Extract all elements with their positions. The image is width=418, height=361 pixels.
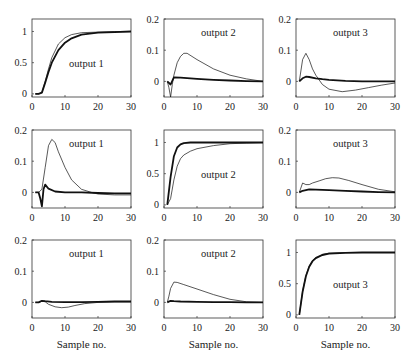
line-thin — [299, 53, 395, 91]
panel-label: output 2 — [201, 248, 236, 259]
x-tick-label: 20 — [225, 322, 235, 333]
y-tick-label: 0.2 — [147, 14, 160, 25]
subplot-r3-c1: 010203000.10.2output 1Sample no. — [15, 235, 137, 351]
y-tick-label: 0.5 — [279, 278, 292, 289]
y-tick-label: 0.5 — [15, 57, 28, 68]
x-tick-label: 30 — [390, 322, 400, 333]
panel-label: output 1 — [69, 138, 104, 149]
x-tick-label: 30 — [258, 322, 268, 333]
panel-label: output 3 — [333, 138, 368, 149]
x-axis-label: Sample no. — [321, 338, 371, 350]
x-tick-label: 0 — [162, 212, 167, 223]
line-thick — [167, 301, 263, 303]
panel-label: output 1 — [69, 248, 104, 259]
y-tick-label: 1 — [286, 247, 291, 258]
y-tick-label: 0.1 — [279, 156, 292, 167]
x-tick-label: 30 — [390, 101, 400, 112]
subplot-r2-c3: 010203000.10.2output 3 — [279, 125, 401, 224]
x-tick-label: 10 — [324, 101, 334, 112]
x-tick-label: 10 — [192, 212, 202, 223]
x-tick-label: 10 — [324, 322, 334, 333]
y-tick-label: 0.2 — [279, 14, 292, 25]
figure-3x3-step-responses: 010203000.51output 1010203000.10.2output… — [0, 0, 418, 361]
x-tick-label: 0 — [294, 212, 299, 223]
x-tick-label: 30 — [126, 101, 136, 112]
y-tick-label: 1 — [154, 137, 159, 148]
x-tick-label: 0 — [294, 322, 299, 333]
x-tick-label: 0 — [30, 212, 35, 223]
y-tick-label: 1 — [22, 26, 27, 37]
subplot-r1-c3: 010203000.10.2output 3 — [279, 14, 401, 113]
x-tick-label: 0 — [294, 101, 299, 112]
x-tick-label: 20 — [357, 101, 367, 112]
x-tick-label: 10 — [60, 212, 70, 223]
panel-label: output 2 — [201, 27, 236, 38]
y-tick-label: 0 — [154, 76, 159, 87]
panel-label: output 3 — [333, 279, 368, 290]
x-tick-label: 10 — [192, 101, 202, 112]
y-tick-label: 0 — [22, 187, 27, 198]
x-tick-label: 30 — [126, 322, 136, 333]
x-axis-label: Sample no. — [189, 338, 239, 350]
x-tick-label: 30 — [258, 101, 268, 112]
y-tick-label: 0.1 — [15, 266, 28, 277]
subplot-r2-c2: 010203000.51output 2 — [147, 130, 269, 223]
y-tick-label: 0.1 — [15, 156, 28, 167]
line-thick — [299, 77, 395, 82]
subplot-r3-c2: 010203000.10.2output 2Sample no. — [147, 235, 269, 351]
y-tick-label: 0.2 — [147, 235, 160, 246]
y-tick-label: 0 — [154, 199, 159, 210]
x-tick-label: 0 — [30, 101, 35, 112]
y-tick-label: 0.2 — [15, 125, 28, 136]
x-tick-label: 10 — [192, 322, 202, 333]
y-tick-label: 0.2 — [279, 125, 292, 136]
x-tick-label: 10 — [60, 101, 70, 112]
y-tick-label: 0 — [286, 187, 291, 198]
y-tick-label: 0.1 — [147, 45, 160, 56]
x-axis-label: Sample no. — [57, 338, 107, 350]
y-tick-label: 0.1 — [279, 45, 292, 56]
subplot-r2-c1: 010203000.10.2output 1 — [15, 125, 137, 224]
panel-label: output 1 — [69, 58, 104, 69]
x-tick-label: 20 — [93, 212, 103, 223]
x-tick-label: 20 — [93, 101, 103, 112]
line-thick — [167, 77, 263, 84]
y-tick-label: 0.1 — [147, 266, 160, 277]
x-tick-label: 20 — [225, 101, 235, 112]
subplot-r1-c2: 010203000.10.2output 2 — [147, 14, 269, 113]
x-tick-label: 10 — [324, 212, 334, 223]
x-tick-label: 0 — [162, 322, 167, 333]
panel-label: output 2 — [201, 169, 236, 180]
y-tick-label: 0.5 — [147, 168, 160, 179]
y-tick-label: 0 — [286, 76, 291, 87]
x-tick-label: 30 — [258, 212, 268, 223]
y-tick-label: 0.2 — [15, 235, 28, 246]
line-thin — [167, 53, 263, 97]
panel-label: output 3 — [333, 27, 368, 38]
x-tick-label: 20 — [225, 212, 235, 223]
x-tick-label: 0 — [162, 101, 167, 112]
x-tick-label: 10 — [60, 322, 70, 333]
x-tick-label: 30 — [126, 212, 136, 223]
x-tick-label: 20 — [93, 322, 103, 333]
y-tick-label: 0 — [286, 309, 291, 320]
y-tick-label: 0 — [22, 88, 27, 99]
x-tick-label: 20 — [357, 322, 367, 333]
line-thick — [35, 301, 131, 303]
x-tick-label: 30 — [390, 212, 400, 223]
y-tick-label: 0 — [154, 297, 159, 308]
subplot-r3-c3: 010203000.51output 3Sample no. — [279, 240, 401, 350]
x-tick-label: 20 — [357, 212, 367, 223]
x-tick-label: 0 — [30, 322, 35, 333]
subplot-r1-c1: 010203000.51output 1 — [15, 19, 137, 112]
line-thin — [167, 282, 263, 302]
y-tick-label: 0 — [22, 297, 27, 308]
line-thick — [35, 185, 131, 207]
